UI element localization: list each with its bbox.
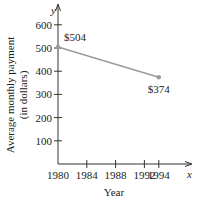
- y-tick-label: 100: [36, 135, 53, 147]
- data-label: $504: [64, 31, 87, 43]
- data-point: [56, 45, 60, 49]
- y-tick-label: 500: [36, 42, 53, 54]
- x-axis-letter: x: [186, 168, 192, 180]
- y-tick-label: 600: [36, 19, 53, 31]
- y-tick-label: 400: [36, 65, 53, 77]
- x-axis-title: Year: [104, 186, 125, 198]
- x-tick-label: 1984: [76, 169, 99, 181]
- y-axis-title-line2: (in dollars): [17, 70, 30, 119]
- y-tick-label: 200: [36, 112, 53, 124]
- data-point: [157, 75, 161, 79]
- x-tick-label: 1988: [105, 169, 128, 181]
- x-tick-label: 1994: [148, 169, 171, 181]
- y-tick-label: 300: [36, 88, 53, 100]
- axes: [56, 4, 193, 167]
- data-label: $374: [148, 83, 171, 95]
- y-axis-letter: y: [50, 4, 56, 16]
- x-ticks: 19801984198819921994: [47, 160, 170, 181]
- annotations: $504$374: [64, 31, 170, 95]
- data-series: [56, 45, 161, 80]
- series-line: [58, 47, 159, 77]
- line-chart: 100200300400500600 19801984198819921994 …: [0, 0, 199, 204]
- y-axis-title-line1: Average monthly payment: [4, 37, 16, 153]
- x-tick-label: 1980: [47, 169, 70, 181]
